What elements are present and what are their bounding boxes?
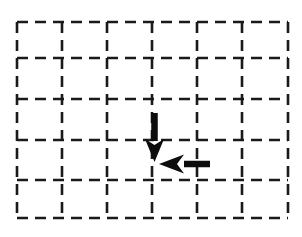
dashed-grid-figure	[0, 0, 302, 237]
left-arrow-shaft	[184, 161, 210, 168]
down-arrow-shaft	[151, 113, 158, 141]
figure-root	[0, 0, 302, 237]
